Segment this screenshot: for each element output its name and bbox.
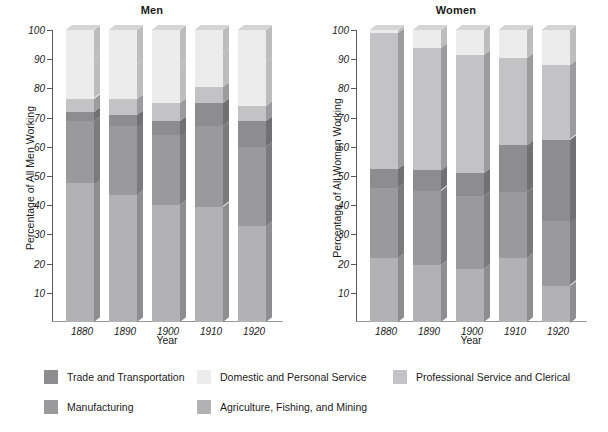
y-tick-label: 30 bbox=[338, 229, 349, 240]
bar-segment bbox=[238, 30, 266, 62]
bar-segment-side bbox=[484, 265, 490, 322]
bar-segment bbox=[370, 33, 398, 169]
bar-segment-side bbox=[223, 202, 229, 322]
figure: MenPercentage of All Men Working10090807… bbox=[0, 0, 608, 432]
bar-women-1890[interactable] bbox=[413, 30, 441, 322]
bar-segment-face bbox=[66, 121, 94, 184]
legend-item[interactable]: Trade and Transportation bbox=[44, 370, 185, 384]
bar-segment-face bbox=[152, 103, 180, 121]
legend-swatch bbox=[197, 370, 211, 384]
bar-segment-face bbox=[238, 147, 266, 226]
bar-segment bbox=[542, 286, 570, 323]
chart-panel-men: MenPercentage of All Men Working10090807… bbox=[0, 0, 304, 360]
bar-segment-face bbox=[109, 64, 137, 99]
bar-segment-face bbox=[542, 65, 570, 139]
bar-segment-face bbox=[152, 205, 180, 322]
bar-women-1900[interactable] bbox=[456, 30, 484, 322]
bar-segment bbox=[109, 30, 137, 64]
bar-segment-face bbox=[66, 112, 94, 121]
y-tick-label: 60 bbox=[34, 141, 45, 152]
bar-men-1880[interactable] bbox=[66, 30, 94, 322]
bar-men-1920[interactable] bbox=[238, 30, 266, 322]
bar-segment bbox=[238, 226, 266, 322]
bar-segment-face bbox=[66, 99, 94, 112]
bar-segment-face bbox=[413, 48, 441, 171]
bar-segment bbox=[66, 183, 94, 322]
legend-swatch bbox=[197, 400, 211, 414]
bar-segment-face bbox=[499, 30, 527, 58]
bar-segment bbox=[66, 99, 94, 112]
bar-segment bbox=[152, 103, 180, 121]
bar-segment-face bbox=[499, 58, 527, 146]
bar-segment bbox=[413, 191, 441, 265]
legend-label: Trade and Transportation bbox=[67, 371, 185, 383]
bar-segment bbox=[238, 147, 266, 226]
bar-segment-side bbox=[570, 135, 576, 221]
bar-segment bbox=[542, 221, 570, 285]
y-tick bbox=[47, 176, 52, 177]
y-tick bbox=[47, 88, 52, 89]
bar-segment bbox=[456, 30, 484, 55]
bar-segment-side bbox=[441, 186, 447, 265]
y-tick bbox=[351, 147, 356, 148]
bar-segment-face bbox=[456, 30, 484, 55]
bar-segment-face bbox=[456, 196, 484, 269]
bar-segment-face bbox=[499, 145, 527, 192]
bar-segment-face bbox=[542, 221, 570, 285]
bar-segment bbox=[542, 30, 570, 65]
y-tick-label: 90 bbox=[338, 54, 349, 65]
bar-segment-side bbox=[484, 192, 490, 270]
y-tick-label: 70 bbox=[34, 112, 45, 123]
bar-segment-face bbox=[456, 173, 484, 196]
legend-item[interactable]: Domestic and Personal Service bbox=[197, 370, 366, 384]
bar-men-1900[interactable] bbox=[152, 30, 180, 322]
bar-segment bbox=[370, 169, 398, 188]
legend-item[interactable]: Manufacturing bbox=[44, 400, 134, 414]
y-tick-label: 50 bbox=[338, 171, 349, 182]
bar-segment bbox=[195, 30, 223, 53]
bar-segment bbox=[66, 112, 94, 121]
legend-item[interactable]: Professional Service and Clerical bbox=[393, 370, 570, 384]
bar-segment bbox=[238, 121, 266, 147]
bar-segment-face bbox=[66, 59, 94, 98]
bar-segment-face bbox=[542, 286, 570, 323]
legend-swatch bbox=[393, 370, 407, 384]
bar-segment-face bbox=[499, 258, 527, 322]
bar-men-1890[interactable] bbox=[109, 30, 137, 322]
y-axis-line bbox=[356, 30, 357, 322]
bar-women-1920[interactable] bbox=[542, 30, 570, 322]
bar-segment-face bbox=[456, 269, 484, 322]
bar-segment-side bbox=[527, 25, 533, 57]
bar-segment bbox=[66, 30, 94, 59]
bar-segment-face bbox=[109, 115, 137, 127]
y-tick-label: 100 bbox=[28, 25, 45, 36]
y-tick-label: 20 bbox=[34, 258, 45, 269]
bar-men-1910[interactable] bbox=[195, 30, 223, 322]
bar-segment-face bbox=[542, 30, 570, 65]
legend-swatch bbox=[44, 400, 58, 414]
bar-segment-side bbox=[570, 281, 576, 322]
bar-segment-side bbox=[223, 49, 229, 87]
bar-segment bbox=[238, 62, 266, 106]
bar-segment bbox=[152, 205, 180, 322]
bar-segment bbox=[109, 99, 137, 115]
bar-segment-face bbox=[66, 183, 94, 322]
bar-women-1880[interactable] bbox=[370, 30, 398, 322]
legend-item[interactable]: Agriculture, Fishing, and Mining bbox=[197, 400, 367, 414]
y-tick-label: 10 bbox=[34, 287, 45, 298]
bar-segment-face bbox=[413, 191, 441, 265]
bar-segment-side bbox=[266, 25, 272, 62]
bar-women-1910[interactable] bbox=[499, 30, 527, 322]
bar-segment bbox=[499, 30, 527, 58]
bar-segment bbox=[456, 269, 484, 322]
y-tick bbox=[47, 30, 52, 31]
y-tick-label: 80 bbox=[338, 83, 349, 94]
bar-segment bbox=[66, 59, 94, 98]
bar-segment-side bbox=[527, 253, 533, 322]
bar-segment bbox=[542, 65, 570, 139]
bar-segment bbox=[413, 170, 441, 190]
bar-segment bbox=[370, 188, 398, 258]
bar-segment-side bbox=[527, 141, 533, 192]
bar-segment bbox=[152, 121, 180, 136]
y-tick bbox=[47, 118, 52, 119]
